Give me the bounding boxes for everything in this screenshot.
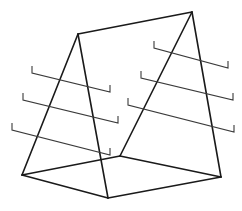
figure-container: [0, 0, 242, 211]
wireframe-drawing: [0, 0, 242, 211]
